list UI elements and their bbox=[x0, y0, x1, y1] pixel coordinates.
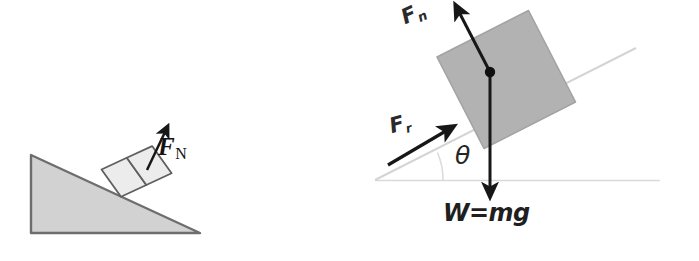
physics-incline-figure: FN Fn Fr θ W=mg bbox=[0, 0, 699, 261]
normal-force-label-left: FN bbox=[158, 134, 187, 162]
angle-arc bbox=[438, 153, 444, 181]
center-of-mass-dot bbox=[485, 67, 495, 77]
normal-force-subscript: N bbox=[175, 145, 187, 162]
normal-force-symbol: F bbox=[158, 133, 175, 160]
figure-canvas bbox=[0, 0, 699, 261]
right-diagram-group bbox=[375, 11, 660, 191]
tilted-block bbox=[437, 11, 576, 149]
incline-angle-label: θ bbox=[455, 143, 470, 168]
weight-label: W=mg bbox=[443, 201, 530, 225]
